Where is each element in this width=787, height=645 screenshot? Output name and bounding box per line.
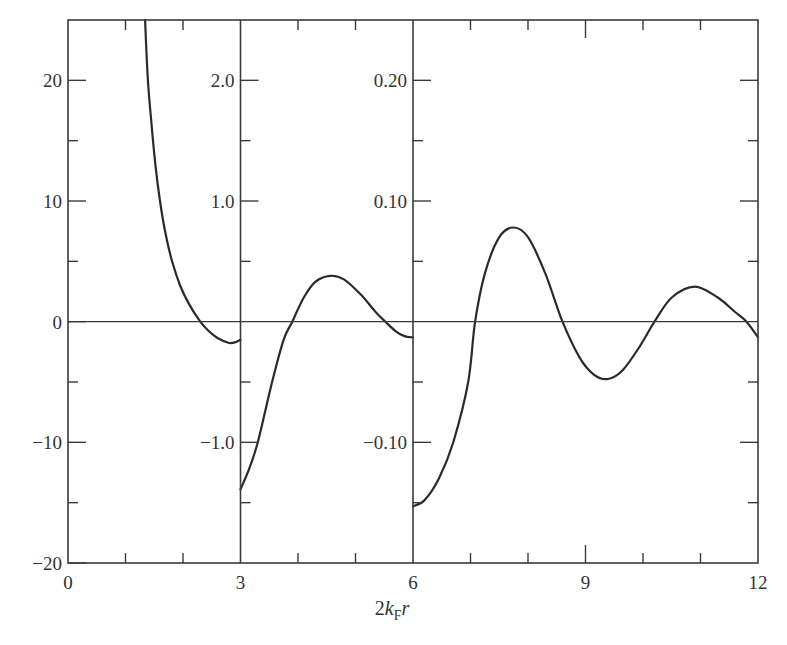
x-tick-label: 6 (408, 572, 418, 593)
x-tick-label: 12 (749, 572, 768, 593)
y-tick-label: 2.0 (211, 70, 235, 91)
y-tick-label: 0.20 (374, 70, 407, 91)
curve-panel-2 (241, 276, 414, 490)
y-tick-label: 0 (53, 312, 63, 333)
plot-curves (145, 20, 758, 506)
curve-panel-1 (145, 20, 240, 343)
y-tick-label: 10 (43, 191, 62, 212)
rkky-oscillation-chart: 03691220100−10−202.01.0−1.00.200.10−0.10… (0, 0, 787, 645)
x-tick-label: 3 (236, 572, 246, 593)
y-tick-label: −1.0 (200, 432, 234, 453)
x-axis-label: 2kFr (375, 597, 410, 623)
y-tick-label: 20 (43, 70, 62, 91)
curve-panel-3 (413, 228, 758, 507)
tick-labels: 03691220100−10−202.01.0−1.00.200.10−0.10 (32, 70, 767, 593)
x-tick-label: 0 (63, 572, 73, 593)
y-tick-label: −0.10 (363, 432, 407, 453)
y-tick-label: −10 (32, 432, 62, 453)
x-tick-label: 9 (581, 572, 591, 593)
y-tick-label: −20 (32, 553, 62, 574)
y-tick-label: 1.0 (211, 191, 235, 212)
axes (68, 20, 758, 563)
y-tick-label: 0.10 (374, 191, 407, 212)
